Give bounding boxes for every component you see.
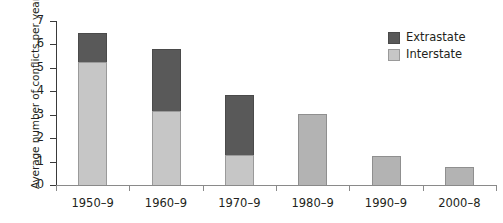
legend: Extrastate Interstate (388, 30, 466, 64)
bar-segment-interstate (298, 114, 327, 185)
bar-segment-interstate (445, 167, 474, 185)
bar-group (225, 95, 254, 185)
x-tick-label: 1970–9 (218, 196, 260, 210)
legend-label-extrastate: Extrastate (406, 32, 466, 44)
x-tick-label: 1980–9 (291, 196, 333, 210)
x-tick-mark (129, 185, 130, 191)
bar-segment-extrastate (78, 33, 107, 62)
legend-label-interstate: Interstate (406, 49, 462, 61)
bar-segment-interstate (372, 156, 401, 185)
bar-segment-interstate (225, 155, 254, 185)
bar-segment-extrastate (225, 95, 254, 155)
bar-segment-interstate (152, 111, 181, 185)
legend-item-interstate: Interstate (388, 47, 466, 62)
bar-group (78, 33, 107, 185)
bar-group (372, 156, 401, 185)
x-tick-mark (423, 185, 424, 191)
bar-group (445, 167, 474, 185)
x-tick-mark (56, 185, 57, 191)
x-tick-mark (496, 185, 497, 191)
bar-group (152, 49, 181, 185)
x-tick-label: 2000–8 (438, 196, 480, 210)
legend-item-extrastate: Extrastate (388, 30, 466, 45)
x-tick-mark (276, 185, 277, 191)
bar-segment-extrastate (152, 49, 181, 111)
legend-swatch-extrastate-icon (388, 32, 400, 44)
x-tick-label: 1950–9 (71, 196, 113, 210)
x-tick-label: 1990–9 (365, 196, 407, 210)
bar-group (298, 114, 327, 185)
bar-chart: Average number of conflicts per year 012… (0, 0, 503, 223)
x-tick-mark (349, 185, 350, 191)
x-tick-label: 1960–9 (145, 196, 187, 210)
x-tick-mark (203, 185, 204, 191)
bar-segment-interstate (78, 62, 107, 185)
legend-swatch-interstate-icon (388, 49, 400, 61)
